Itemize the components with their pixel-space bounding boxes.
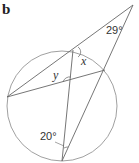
angle-20-label: 20° xyxy=(40,130,57,142)
angle-29-label: 29° xyxy=(106,24,123,36)
circle xyxy=(7,51,117,161)
angle-20-arc xyxy=(64,147,68,148)
angle-20-pointer xyxy=(55,142,64,146)
angle-x-label: x xyxy=(80,54,87,68)
geometry-diagram: b 29° 20° x y xyxy=(0,0,139,163)
angle-y-label: y xyxy=(52,68,59,82)
part-label: b xyxy=(2,1,10,17)
chord-top-to-bottom xyxy=(62,50,73,161)
